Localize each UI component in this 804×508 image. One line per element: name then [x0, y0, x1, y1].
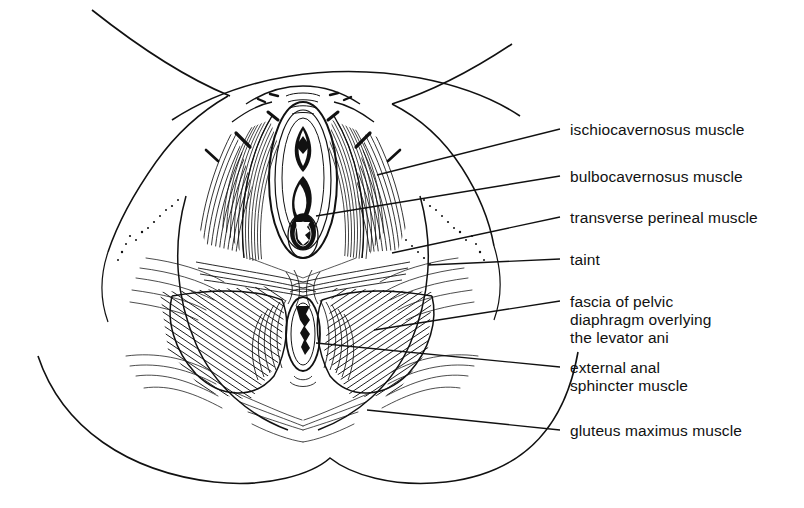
label-external-anal-sphincter-line2: sphincter muscle	[570, 377, 688, 395]
leader-transverse-perineal	[392, 217, 560, 253]
leader-external-anal-sphincter	[316, 343, 560, 367]
label-bulbocavernosus: bulbocavernosus muscle	[570, 168, 743, 186]
label-fascia-line3: the levator ani	[570, 329, 669, 347]
label-gluteus-maximus: gluteus maximus muscle	[570, 422, 742, 440]
label-fascia-line2: diaphragm overlying	[570, 311, 711, 329]
label-taint: taint	[570, 251, 600, 269]
leader-fascia-pelvic-diaphragm	[374, 301, 560, 330]
label-transverse-perineal: transverse perineal muscle	[570, 209, 758, 227]
label-external-anal-sphincter-line1: external anal	[570, 359, 660, 377]
leader-gluteus-maximus	[367, 410, 560, 430]
leader-ischiocavernosus	[377, 129, 560, 175]
leader-bulbocavernosus	[316, 176, 560, 216]
leader-taint	[428, 259, 560, 265]
label-fascia-line1: fascia of pelvic	[570, 293, 673, 311]
anatomical-figure: ischiocavernosus muscle bulbocavernosus …	[0, 0, 804, 508]
label-ischiocavernosus: ischiocavernosus muscle	[570, 121, 745, 139]
